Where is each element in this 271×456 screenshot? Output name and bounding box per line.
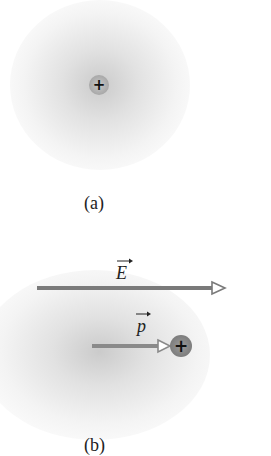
field-label-E: E <box>116 263 127 284</box>
arrows-layer <box>0 0 271 456</box>
electric-field-arrow <box>37 282 225 294</box>
dipole-label-p: p <box>137 316 146 337</box>
positive-charge-b: + <box>170 335 192 357</box>
caption-b: (b) <box>84 435 105 456</box>
dipole-moment-arrow <box>92 340 170 352</box>
plus-icon: + <box>174 336 188 356</box>
